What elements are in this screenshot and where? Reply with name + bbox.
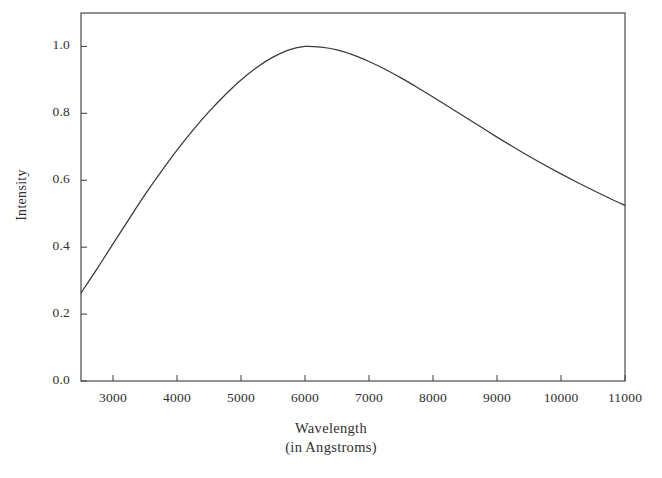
x-axis-title-line2: (in Angstroms) bbox=[0, 438, 662, 457]
x-axis-ticks bbox=[113, 375, 625, 381]
chart-figure: 0.00.20.40.60.81.0 300040005000600070008… bbox=[0, 0, 662, 478]
x-axis-title: Wavelength (in Angstroms) bbox=[0, 419, 662, 457]
x-tick-label: 11000 bbox=[580, 390, 662, 406]
x-axis-title-line1: Wavelength bbox=[295, 420, 367, 436]
axes-frame bbox=[81, 13, 625, 381]
y-tick-label: 0.8 bbox=[53, 104, 70, 120]
y-tick-label: 1.0 bbox=[53, 37, 70, 53]
intensity-curve bbox=[81, 46, 625, 293]
y-axis-ticks bbox=[81, 46, 87, 381]
y-tick-label: 0.2 bbox=[53, 305, 70, 321]
y-tick-label: 0.0 bbox=[53, 372, 70, 388]
y-tick-label: 0.6 bbox=[53, 171, 70, 187]
y-axis-title: Intensity bbox=[14, 135, 30, 255]
plot-canvas bbox=[0, 0, 662, 478]
y-tick-label: 0.4 bbox=[53, 238, 70, 254]
